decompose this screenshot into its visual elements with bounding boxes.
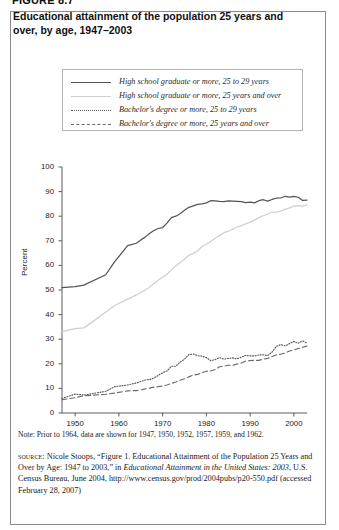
legend-item: Bachelor's degree or more, 25 to 29 year…: [71, 103, 302, 117]
x-tick-label: 1960: [102, 419, 136, 428]
x-tick-label: 1980: [189, 419, 223, 428]
legend-label: Bachelor's degree or more, 25 years and …: [119, 119, 269, 129]
y-tick-label: 80: [32, 211, 54, 220]
y-tick-label: 70: [32, 236, 54, 245]
chart-note: Note: Prior to 1964, data are shown for …: [18, 430, 318, 440]
y-tick-label: 40: [32, 310, 54, 319]
chart-source: source: Nicole Stoops, “Figure 1. Educat…: [18, 451, 318, 496]
legend-label: Bachelor's degree or more, 25 to 29 year…: [119, 105, 257, 115]
legend-label: High school graduate or more, 25 years a…: [119, 91, 281, 101]
legend-line-swatch-hs-25-over: [71, 91, 111, 101]
legend-line-swatch-hs-25-29: [71, 77, 111, 87]
x-tick-label: 1950: [58, 419, 92, 428]
y-axis-label: Percent: [20, 248, 29, 276]
y-tick-label: 100: [32, 162, 54, 171]
x-tick-label: 2000: [277, 419, 311, 428]
legend-item: Bachelor's degree or more, 25 years and …: [71, 117, 302, 131]
x-tick-label: 1990: [233, 419, 267, 428]
legend-label: High school graduate or more, 25 to 29 y…: [119, 77, 269, 87]
source-italic-title: Educational Attainment in the United Sta…: [124, 463, 289, 472]
y-tick-label: 30: [32, 334, 54, 343]
x-tick-label: 1970: [146, 419, 180, 428]
y-tick-label: 0: [32, 408, 54, 417]
y-tick-label: 50: [32, 285, 54, 294]
legend-item: High school graduate or more, 25 to 29 y…: [71, 75, 302, 89]
figure-page: FIGURE 8.7 Educational attainment of the…: [0, 0, 339, 530]
y-tick-label: 90: [32, 187, 54, 196]
legend-item: High school graduate or more, 25 years a…: [71, 89, 302, 103]
y-tick-label: 10: [32, 383, 54, 392]
y-tick-label: 20: [32, 359, 54, 368]
y-tick-label: 60: [32, 260, 54, 269]
chart-legend: High school graduate or more, 25 to 29 y…: [62, 69, 303, 131]
source-kicker: source:: [18, 451, 45, 461]
legend-line-swatch-ba-25-over: [71, 119, 111, 129]
legend-line-swatch-ba-25-29: [71, 105, 111, 115]
figure-title: Educational attainment of the population…: [13, 9, 301, 37]
figure-number: FIGURE 8.7: [12, 0, 74, 6]
